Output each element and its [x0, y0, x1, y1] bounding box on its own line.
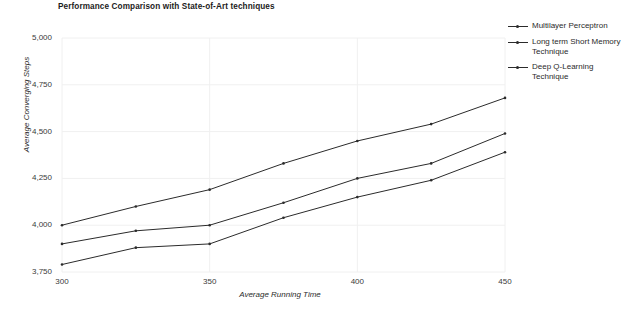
data-point-marker	[504, 132, 507, 135]
legend-item-label: Long term Short Memory Technique	[532, 37, 621, 56]
data-point-marker	[356, 196, 359, 199]
data-point-marker	[356, 177, 359, 180]
data-point-marker	[356, 140, 359, 143]
data-point-marker	[208, 188, 211, 191]
data-point-marker	[135, 205, 138, 208]
data-point-marker	[282, 162, 285, 165]
data-point-marker	[430, 179, 433, 182]
legend-item[interactable]: Multilayer Perceptron	[508, 21, 621, 31]
legend-item[interactable]: Long term Short Memory Technique	[508, 37, 621, 56]
chart-root: Performance Comparison with State-of-Art…	[0, 0, 621, 309]
legend-item[interactable]: Deep Q-Learning Technique	[508, 62, 621, 81]
data-point-marker	[61, 243, 64, 246]
x-axis-title: Average Running Time	[0, 290, 560, 299]
data-point-marker	[208, 243, 211, 246]
legend-item-label: Multilayer Perceptron	[532, 21, 608, 31]
data-point-marker	[208, 224, 211, 227]
data-point-marker	[430, 123, 433, 126]
data-point-marker	[61, 224, 64, 227]
data-point-marker	[504, 151, 507, 154]
legend-line-icon	[508, 63, 528, 72]
data-point-marker	[135, 246, 138, 249]
data-point-marker	[61, 263, 64, 266]
data-point-marker	[504, 97, 507, 100]
data-point-marker	[135, 230, 138, 233]
legend-line-icon	[508, 22, 528, 31]
legend-line-icon	[508, 38, 528, 47]
series-line	[62, 133, 505, 243]
data-point-marker	[282, 201, 285, 204]
data-point-marker	[282, 216, 285, 219]
chart-legend: Multilayer PerceptronLong term Short Mem…	[508, 21, 621, 87]
series-line	[62, 98, 505, 225]
data-point-marker	[430, 162, 433, 165]
legend-item-label: Deep Q-Learning Technique	[532, 62, 621, 81]
